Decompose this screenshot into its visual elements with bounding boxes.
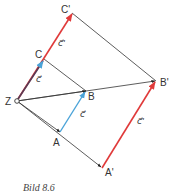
- label-vector-c-left: c⃗: [36, 74, 42, 84]
- label-vector-c-AB: c⃗: [80, 109, 86, 119]
- label-B-prime: B': [160, 77, 169, 88]
- label-C-prime: C': [61, 4, 70, 15]
- label-Z: Z: [5, 96, 11, 107]
- ray-Z-Aprime: [17, 101, 101, 167]
- ray-Z-A-arrow: [17, 101, 60, 132]
- label-vector-c-prime-top: c⃗': [58, 38, 65, 48]
- vector-diagram: Z A B C A' B' C' c⃗' c⃗ c⃗ c⃗' Bild 8.6: [0, 0, 170, 193]
- line-C-B: [44, 59, 86, 91]
- line-Cprime-Bprime: [72, 13, 156, 81]
- vector-c-prime-Aprime-Bprime: [102, 82, 155, 168]
- label-B: B: [88, 91, 95, 102]
- label-C: C: [35, 49, 42, 60]
- ray-Z-B-arrow: [17, 91, 86, 101]
- center-point-Z: [15, 99, 20, 104]
- label-vector-c-prime-right: c⃗': [137, 116, 144, 126]
- label-A-prime: A': [105, 167, 114, 178]
- figure-caption: Bild 8.6: [23, 182, 55, 193]
- label-A: A: [53, 137, 60, 148]
